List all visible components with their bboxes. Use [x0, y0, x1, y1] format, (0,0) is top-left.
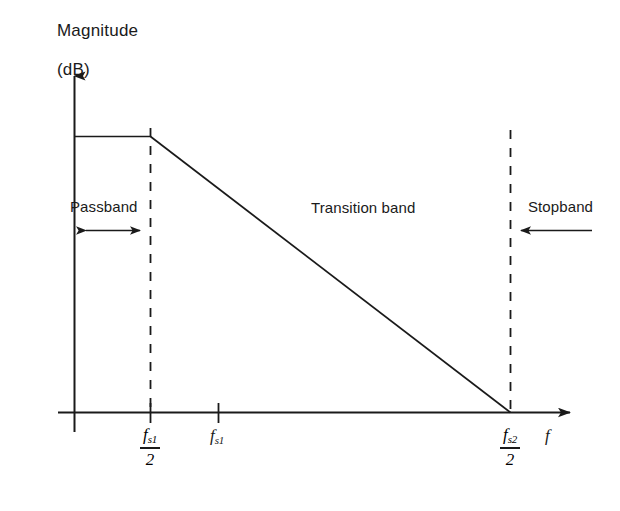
x-axis-title: f	[545, 427, 550, 444]
tick-label-fs1-half-num-subscript: s1	[148, 433, 157, 445]
tick-label-fs1-subscript: s1	[215, 434, 224, 446]
y-axis-title-unit: (dB)	[57, 61, 90, 78]
tick-label-fs2-half-fraction-bar	[500, 447, 520, 449]
tick-label-fs1-half-fraction-bar	[140, 447, 160, 449]
tick-label-fs2-half-numerator: fs2	[500, 426, 520, 446]
transition-slope-line	[151, 137, 511, 413]
stopband-label: Stopband	[528, 199, 593, 214]
tick-label-fs2-half: fs2 2	[500, 426, 520, 468]
y-axis-title-magnitude: Magnitude	[57, 22, 138, 39]
passband-label: Passband	[70, 199, 138, 214]
tick-label-fs1-half-denominator: 2	[140, 450, 160, 468]
tick-label-fs1: fs1	[210, 427, 224, 446]
tick-label-fs2-half-num-subscript: s2	[508, 433, 517, 445]
tick-label-fs1-half: fs1 2	[140, 426, 160, 468]
figure-canvas	[0, 0, 620, 511]
magnitude-response-figure: Magnitude (dB) Passband Transition band …	[0, 0, 620, 511]
transition-band-label: Transition band	[311, 200, 415, 215]
tick-label-fs1-half-numerator: fs1	[140, 426, 160, 446]
tick-label-fs2-half-denominator: 2	[500, 450, 520, 468]
